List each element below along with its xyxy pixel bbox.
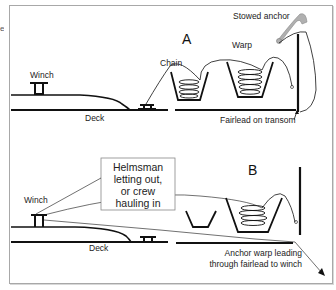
fairlead-label: Fairlead on transom (220, 115, 296, 125)
callout-line-4: hauling in (116, 197, 161, 209)
chain-bucket-a (171, 72, 208, 100)
cabin-top-a (11, 95, 130, 110)
anchor-stowage-diagram: Winch Deck Chain Warp Stowed anchor Fair… (0, 0, 336, 290)
winch-label-b: Winch (24, 195, 48, 205)
chain-bucket-b (186, 211, 216, 227)
deck-label-a: Deck (85, 113, 105, 123)
panel-b-label: B (248, 162, 257, 178)
warp-caption-line-2: through fairlead to winch (209, 259, 302, 269)
cabin-top-b (11, 227, 131, 242)
deck-label-b: Deck (89, 243, 109, 253)
panel-a-label: A (182, 31, 192, 47)
callout-line-2: letting out, (114, 173, 162, 185)
winch-icon-a (30, 82, 48, 95)
panel-b: Helmsman letting out, or crew hauling in… (11, 158, 325, 276)
cleat-icon-a (138, 104, 156, 110)
warp-bucket-b (226, 198, 282, 232)
winch-label-a: Winch (30, 70, 54, 80)
warp-label: Warp (232, 40, 252, 50)
chain-label: Chain (160, 58, 182, 68)
warp-caption-line-1: Anchor warp leading (225, 248, 303, 258)
panel-a: Winch Deck Chain Warp Stowed anchor Fair… (11, 11, 316, 125)
warp-bucket-a (227, 62, 273, 97)
callout-line-1: Helmsman (113, 161, 163, 173)
stowed-anchor-label: Stowed anchor (233, 11, 290, 21)
winch-icon-b (31, 214, 47, 227)
callout-line-3: or crew (121, 185, 156, 197)
